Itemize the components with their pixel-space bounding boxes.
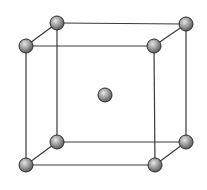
atom-front-top-left [19, 39, 33, 53]
atom-back-top-right [179, 17, 193, 31]
atom-back-top-left [50, 16, 64, 30]
atom-back-bottom-left [50, 135, 64, 149]
atom-body-center [98, 88, 112, 102]
edge-front-top-right-to-front-bottom-right [154, 46, 155, 165]
atom-back-bottom-right [179, 135, 193, 149]
atom-front-bottom-right [148, 158, 162, 172]
edge-back-top-left-to-back-top-right [57, 23, 186, 24]
lattice-atoms [19, 16, 193, 172]
bcc-unit-cell-diagram [0, 0, 207, 190]
atom-front-top-right [147, 39, 161, 53]
atom-front-bottom-left [19, 158, 33, 172]
